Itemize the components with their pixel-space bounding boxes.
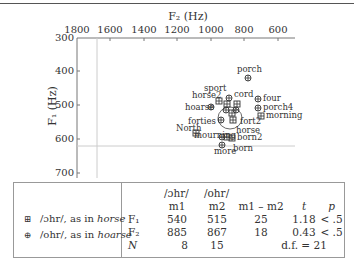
svg-text:born: born: [233, 143, 254, 153]
header-group-ohr-open: /ɔhr/: [164, 187, 194, 199]
header-m1: m1: [162, 200, 192, 212]
svg-text:porch: porch: [237, 64, 262, 74]
svg-text:600: 600: [55, 133, 74, 144]
svg-text:1600: 1600: [97, 24, 122, 35]
formant-scatter-plot: 1800 1600 1400 1200 1000 800 600 F₂ (Hz)…: [0, 0, 354, 182]
cell: < .5: [319, 226, 344, 238]
cell: 1.18: [286, 213, 322, 225]
cell: 25: [236, 213, 286, 225]
legend-hoarse: ⊕/ohr/, as in hoarse: [24, 229, 132, 240]
header-p: p: [319, 200, 344, 212]
header-m2: m2: [202, 200, 232, 212]
y-axis-title: F₁ (Hz): [46, 86, 59, 126]
header-diff: m1 – m2: [236, 200, 286, 212]
stats-table: ⊞/ɔhr/, as in horse ⊕/ohr/, as in hoarse…: [13, 182, 345, 258]
legend-horse: ⊞/ɔhr/, as in horse: [24, 213, 125, 224]
svg-text:800: 800: [234, 24, 253, 35]
svg-text:morning: morning: [266, 110, 303, 120]
cell: 0.43: [286, 226, 322, 238]
svg-text:1400: 1400: [131, 24, 156, 35]
svg-text:600: 600: [268, 24, 287, 35]
svg-text:300: 300: [55, 32, 74, 43]
row-label-f2: F₂: [128, 226, 140, 238]
boxed-plus-icon: ⊞: [24, 214, 34, 224]
header-t: t: [289, 200, 319, 212]
circled-plus-icon: ⊕: [24, 230, 34, 240]
svg-text:mourning: mourning: [194, 130, 236, 140]
cell: 8: [162, 239, 188, 251]
cell: 18: [236, 226, 286, 238]
svg-text:born2: born2: [237, 132, 263, 142]
x-axis-title: F₂ (Hz): [168, 10, 208, 23]
svg-text:400: 400: [55, 65, 74, 76]
row-label-f1: F₁: [128, 213, 140, 225]
svg-text:1200: 1200: [164, 24, 189, 35]
svg-text:700: 700: [55, 167, 74, 178]
cell: < .5: [319, 213, 344, 225]
cell: 515: [202, 213, 232, 225]
cell: 867: [202, 226, 232, 238]
row-label-n: N: [128, 239, 137, 251]
svg-text:cord: cord: [234, 89, 254, 99]
svg-text:horse2: horse2: [192, 90, 221, 100]
cell: 885: [162, 226, 192, 238]
header-group-ohr: /ohr/: [204, 187, 234, 199]
degrees-of-freedom: d.f. = 21: [276, 239, 332, 251]
cell: 15: [202, 239, 232, 251]
x-tick-labels: 1800 1600 1400 1200 1000 800 600: [64, 24, 287, 35]
svg-text:hoarse: hoarse: [185, 102, 214, 112]
point-labels: porch sport horse2 cord four hoarse porc…: [176, 64, 303, 156]
cell: 540: [162, 213, 192, 225]
svg-text:1000: 1000: [198, 24, 223, 35]
